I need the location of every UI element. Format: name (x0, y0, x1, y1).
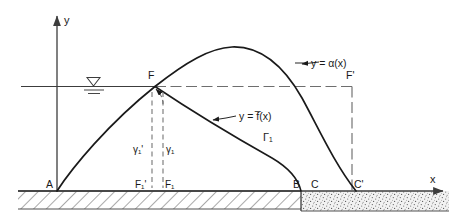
ground-hatched-region (18, 191, 301, 209)
label-alpha-group: y = α(x) (295, 57, 347, 69)
y-axis-label: y (64, 14, 70, 26)
point-label-f: F (148, 69, 154, 81)
figure-canvas: y x y = α(x) y = f̅(x) Γ₁ A F F' B C C' … (0, 0, 457, 223)
point-label-f1: F₁ (165, 179, 175, 190)
point-label-c-prime: C' (354, 178, 364, 190)
label-alpha: y = α(x) (311, 57, 347, 69)
label-gamma-curve: Γ₁ (263, 131, 273, 143)
label-fbar-group: y = f̅(x) (213, 110, 271, 122)
point-label-f1-prime: F₁' (135, 179, 146, 190)
point-label-b: B (293, 178, 300, 190)
point-label-a: A (46, 178, 53, 190)
point-label-c: C (311, 178, 319, 190)
label-fbar: y = f̅(x) (239, 110, 271, 122)
sand-stippled-region (301, 191, 449, 211)
curve-fbar-gamma1 (155, 87, 301, 192)
water-table-symbol (84, 78, 104, 94)
ordinate-label-gamma1-prime: γ₁' (133, 144, 143, 155)
ordinate-label-gamma1: γ₁ (166, 144, 175, 155)
diagram-svg: y x y = α(x) y = f̅(x) Γ₁ A F F' B C C' … (0, 0, 457, 223)
x-axis-label: x (430, 173, 436, 185)
point-label-f-prime: F' (346, 69, 354, 81)
